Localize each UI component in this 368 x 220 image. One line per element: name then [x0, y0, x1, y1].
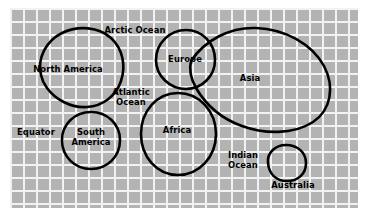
landmass-north-america: [40, 28, 123, 107]
world-map-diagram: Arctic OceanNorth AmericaAtlantic OceanE…: [0, 0, 368, 220]
landmass-outline-layer: [0, 0, 368, 220]
landmass-africa: [141, 93, 216, 175]
landmass-south-america: [62, 112, 120, 169]
landmass-europe: [156, 30, 215, 89]
landmass-australia: [268, 145, 306, 181]
